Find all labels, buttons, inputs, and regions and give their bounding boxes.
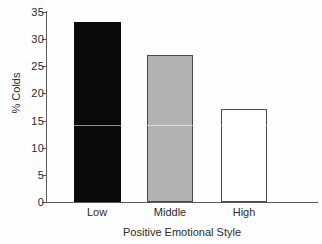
y-tick-label-10: 10 — [14, 143, 44, 154]
bar-low — [74, 22, 121, 202]
x-axis-line — [46, 202, 318, 203]
y-tick-label-5: 5 — [14, 170, 44, 181]
bar-chart-figure: 0 5 10 15 20 25 30 35 Low Middle High Po… — [0, 0, 322, 244]
y-axis-line — [46, 11, 47, 203]
y-axis-title: % Colds — [10, 53, 22, 133]
category-label-high: High — [199, 206, 289, 219]
y-tick-label-0: 0 — [14, 197, 44, 208]
x-axis-title: Positive Emotional Style — [46, 226, 318, 239]
bar-high — [221, 109, 267, 202]
plot-area: 0 5 10 15 20 25 30 35 Low Middle High Po… — [0, 0, 322, 244]
y-tick-label-35: 35 — [14, 7, 44, 18]
y-tick-label-30: 30 — [14, 34, 44, 45]
bar-middle — [147, 55, 193, 202]
